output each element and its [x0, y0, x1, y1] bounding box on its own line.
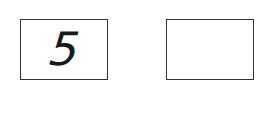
number-box-empty[interactable]: [166, 19, 254, 80]
digit-text: 5: [48, 26, 82, 72]
number-box-filled: 5: [20, 19, 108, 80]
